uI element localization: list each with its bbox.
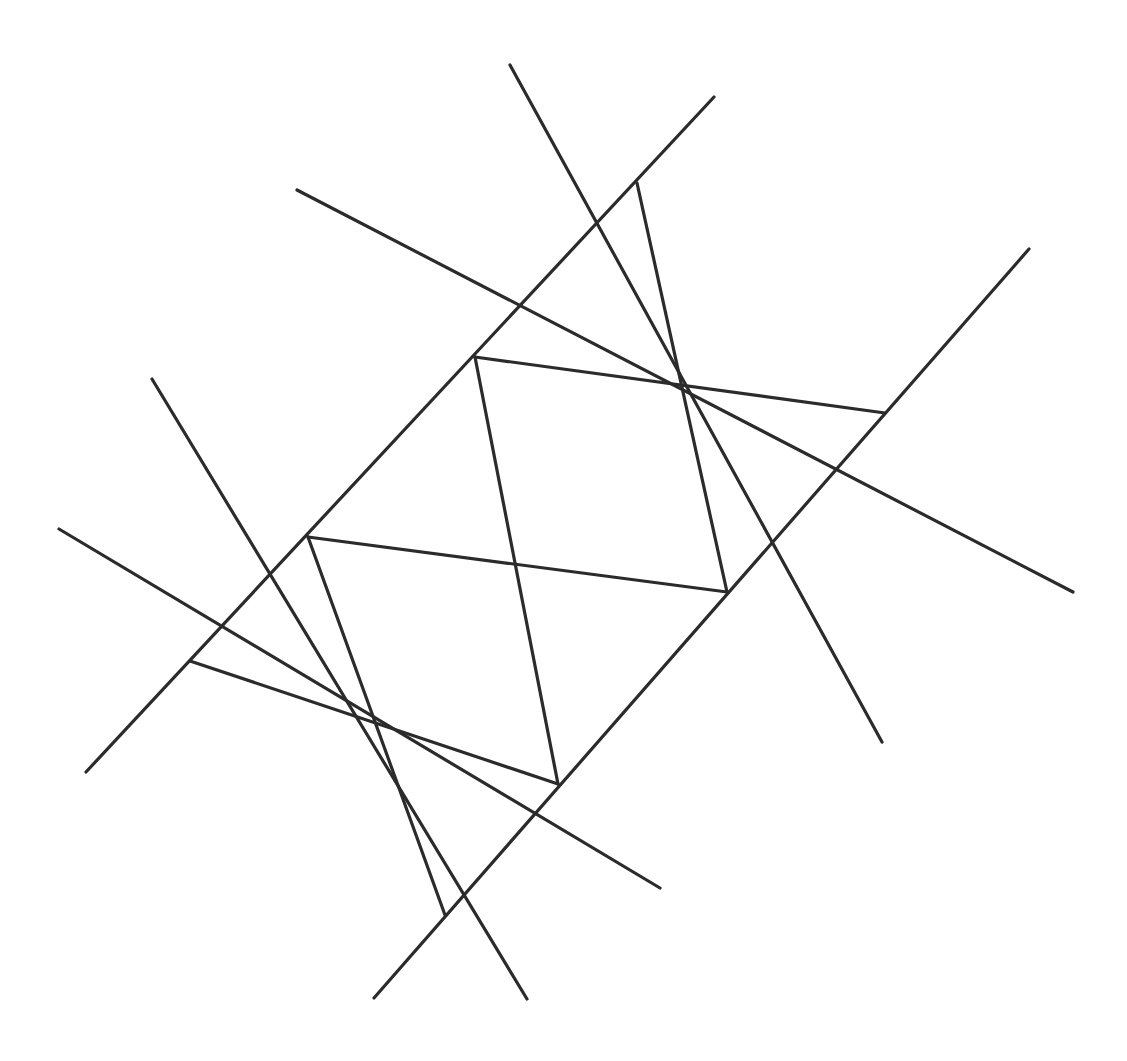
figure-root [0,0,1127,1061]
lattice-diagram [0,0,1127,1061]
